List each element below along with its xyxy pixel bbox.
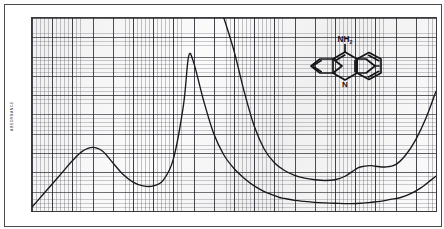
amine-label: NH2 — [338, 35, 353, 45]
ring-nitrogen-label: N — [342, 80, 348, 89]
molecule-structure-inset: NH2 N — [303, 35, 387, 97]
chart-outer-frame: ABSORBANCE 1.00.90.80.70.60.50.40.30.20.… — [4, 4, 442, 227]
figure-root: ABSORBANCE 1.00.90.80.70.60.50.40.30.20.… — [0, 0, 444, 229]
y-axis-title: ABSORBANCE — [10, 101, 14, 131]
acridine-tricyclic-core — [311, 52, 381, 80]
